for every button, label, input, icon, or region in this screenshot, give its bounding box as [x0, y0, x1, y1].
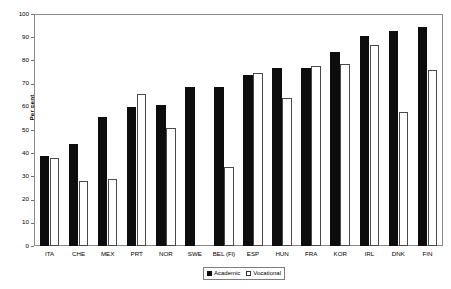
y-tick-mark: [31, 200, 34, 201]
y-tick-mark: [31, 84, 34, 85]
x-axis-labels: ITACHEMEXPRTNORSWEBEL (Fl)ESPHUNFRAKORIR…: [35, 249, 442, 263]
bar-academic-prt: [127, 107, 137, 246]
y-tick-label: 40: [22, 149, 29, 157]
y-tick-mark: [31, 130, 34, 131]
bar-academic-fin: [418, 27, 428, 246]
legend-label: Vocational: [253, 270, 281, 277]
bar-academic-nor: [156, 105, 166, 246]
y-tick-label: 70: [22, 79, 29, 87]
bar-academic-fra: [301, 68, 311, 246]
bar-vocational-nor: [166, 128, 176, 246]
bar-vocational-prt: [137, 94, 147, 246]
bar-group: [297, 15, 326, 246]
bar-group: [268, 15, 297, 246]
x-tick-label: ITA: [35, 249, 64, 258]
x-tick-label: SWE: [180, 249, 209, 258]
x-tick-label: HUN: [268, 249, 297, 258]
bar-academic-kor: [330, 52, 340, 246]
bar-academic-irl: [360, 36, 370, 246]
legend-item-academic: Academic: [207, 270, 240, 277]
bar-vocational-fra: [311, 66, 321, 246]
y-tick-label: 10: [22, 218, 29, 226]
bar-vocational-kor: [340, 64, 350, 246]
bar-vocational-dnk: [399, 112, 409, 246]
y-tick-label: 80: [22, 56, 29, 64]
y-tick-mark: [31, 223, 34, 224]
bar-academic-ita: [40, 156, 50, 246]
bar-group: [384, 15, 413, 246]
bar-vocational-che: [79, 181, 89, 246]
bar-group: [64, 15, 93, 246]
bar-academic-che: [69, 144, 79, 246]
y-tick-mark: [31, 107, 34, 108]
bar-group: [355, 15, 384, 246]
legend-item-vocational: Vocational: [246, 270, 281, 277]
y-tick-label: 50: [22, 126, 29, 134]
y-tick-mark: [31, 37, 34, 38]
x-tick-label: BEL (Fl): [209, 249, 238, 258]
x-tick-label: KOR: [326, 249, 355, 258]
y-tick-label: 30: [22, 172, 29, 180]
bar-academic-mex: [98, 117, 108, 246]
y-tick-mark: [31, 246, 34, 247]
open-square-icon: [246, 271, 251, 276]
x-tick-label: FRA: [297, 249, 326, 258]
chart-legend: AcademicVocational: [203, 267, 285, 280]
bar-group: [209, 15, 238, 246]
bar-academic-dnk: [389, 31, 399, 246]
x-tick-label: MEX: [93, 249, 122, 258]
bar-group: [326, 15, 355, 246]
bar-academic-swe: [185, 87, 195, 246]
y-tick-label: 60: [22, 102, 29, 110]
y-tick-label: 90: [22, 33, 29, 41]
bar-chart-figure: Per cent 0102030405060708090100 ITACHEME…: [0, 0, 451, 289]
legend-label: Academic: [214, 270, 240, 277]
bar-academic-esp: [243, 75, 253, 246]
x-tick-label: PRT: [122, 249, 151, 258]
y-tick-mark: [31, 14, 34, 15]
bar-group: [122, 15, 151, 246]
bar-vocational-fin: [428, 70, 438, 246]
bar-academic-hun: [272, 68, 282, 246]
bar-group: [180, 15, 209, 246]
x-tick-label: FIN: [413, 249, 442, 258]
y-tick-mark: [31, 153, 34, 154]
bar-vocational-esp: [253, 73, 263, 246]
bar-vocational-irl: [370, 45, 380, 246]
x-tick-label: IRL: [355, 249, 384, 258]
bar-vocational-mex: [108, 179, 118, 246]
x-tick-label: NOR: [151, 249, 180, 258]
bar-vocational-ita: [50, 158, 60, 246]
y-tick-label: 20: [22, 195, 29, 203]
bars-layer: [35, 15, 442, 246]
x-tick-label: DNK: [384, 249, 413, 258]
filled-square-icon: [207, 271, 212, 276]
bar-group: [35, 15, 64, 246]
x-tick-label: CHE: [64, 249, 93, 258]
bar-group: [151, 15, 180, 246]
bar-group: [239, 15, 268, 246]
y-tick-mark: [31, 176, 34, 177]
bar-group: [413, 15, 442, 246]
y-tick-label: 0: [26, 242, 29, 250]
y-tick-label: 100: [19, 10, 29, 18]
x-tick-label: ESP: [239, 249, 268, 258]
bar-group: [93, 15, 122, 246]
bar-vocational-hun: [282, 98, 292, 246]
y-tick-mark: [31, 60, 34, 61]
bar-vocational-belfl: [224, 167, 234, 246]
bar-academic-belfl: [214, 87, 224, 246]
